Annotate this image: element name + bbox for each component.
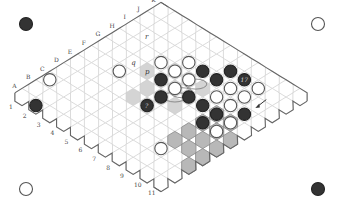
hex-cell [140, 45, 154, 62]
hex-cell [126, 71, 140, 88]
move-number-17: 17 [240, 76, 248, 83]
corner-stone-bottom-left [20, 183, 33, 196]
hex-cell [126, 37, 140, 54]
hex-cell [182, 37, 196, 54]
hex-cell [154, 123, 168, 140]
corner-stone-top-left [20, 18, 33, 31]
annotation-p: p [145, 68, 150, 76]
hex-cell [265, 88, 279, 105]
hex-cell [140, 131, 154, 148]
hex-cell [84, 63, 98, 80]
hex-cell [112, 131, 126, 148]
black-stone [183, 91, 195, 103]
black-stone [197, 99, 209, 111]
hex-cell [168, 114, 182, 131]
black-stone [224, 65, 236, 77]
hex-cell [168, 149, 182, 166]
hex-cell [168, 28, 182, 45]
column-label: G [96, 30, 101, 37]
white-stone [224, 99, 236, 111]
white-stone [210, 125, 222, 137]
black-stone [155, 74, 167, 86]
white-stone [238, 91, 250, 103]
hex-cell [84, 97, 98, 114]
row-label: 5 [65, 138, 69, 145]
hex-cell [196, 45, 210, 62]
row-label: 6 [78, 146, 82, 153]
white-stone [224, 117, 236, 129]
annotation-q: q [131, 59, 136, 67]
row-label: 7 [92, 155, 96, 162]
row-label: 10 [134, 181, 142, 188]
hex-cell [140, 149, 154, 166]
hex-cell [154, 37, 168, 54]
row-label: 8 [106, 164, 110, 171]
black-stone [238, 108, 250, 120]
hex-cell [126, 106, 140, 123]
hex-cell [168, 45, 182, 62]
hex-cell [154, 106, 168, 123]
hex-cell [71, 71, 85, 88]
black-stone [155, 91, 167, 103]
hex-cell [98, 88, 112, 105]
column-label: A [11, 82, 17, 89]
hex-cell [57, 80, 71, 97]
column-label: I [123, 13, 126, 20]
row-label: 4 [51, 129, 55, 136]
white-stone [224, 82, 236, 94]
white-stone [113, 65, 125, 77]
column-label: B [26, 73, 31, 80]
hex-cell [126, 123, 140, 140]
hex-cell [98, 123, 112, 140]
row-label: 2 [23, 112, 27, 119]
row-label: 1 [9, 103, 13, 110]
hex-cell [112, 80, 126, 97]
row-label: 11 [148, 189, 156, 196]
hex-cell [98, 71, 112, 88]
hex-cell [71, 106, 85, 123]
white-stone [210, 91, 222, 103]
hex-cell [140, 80, 154, 97]
white-stone [252, 82, 264, 94]
column-label: H [110, 22, 115, 29]
column-label: F [82, 39, 86, 46]
row-label: 3 [37, 121, 41, 128]
column-label: D [54, 56, 59, 63]
hex-cell [112, 45, 126, 62]
black-stone [210, 108, 222, 120]
hex-cell [57, 97, 71, 114]
hex-cell [43, 88, 57, 105]
column-label: K [151, 0, 156, 3]
row-label: 9 [120, 172, 124, 179]
hex-cell [126, 140, 140, 157]
column-label: J [136, 5, 140, 13]
black-stone [197, 117, 209, 129]
hex-cell [154, 20, 168, 37]
hex-cell [112, 114, 126, 131]
black-stone [210, 74, 222, 86]
hex-cell [154, 157, 168, 174]
hex-cell [71, 88, 85, 105]
hex-board-diagram: ABCDEFGHIJK1234567891011 rqp?17 [0, 0, 342, 212]
hex-cell [210, 54, 224, 71]
hex-cell [182, 106, 196, 123]
hex-cell [168, 97, 182, 114]
white-stone [155, 142, 167, 154]
white-stone [44, 74, 56, 86]
white-stone [183, 56, 195, 68]
white-stone [169, 65, 181, 77]
white-stone [155, 56, 167, 68]
column-label: C [40, 65, 45, 72]
white-stone [169, 82, 181, 94]
hex-cell [98, 54, 112, 71]
black-stone [30, 99, 42, 111]
hex-cell [126, 88, 140, 105]
hex-cell [84, 80, 98, 97]
corner-stone-bottom-right [312, 183, 325, 196]
hex-cell [140, 114, 154, 131]
column-label: E [68, 48, 72, 55]
black-stone [197, 65, 209, 77]
white-stone [183, 74, 195, 86]
corner-stone-top-right [312, 18, 325, 31]
hex-cell [112, 97, 126, 114]
